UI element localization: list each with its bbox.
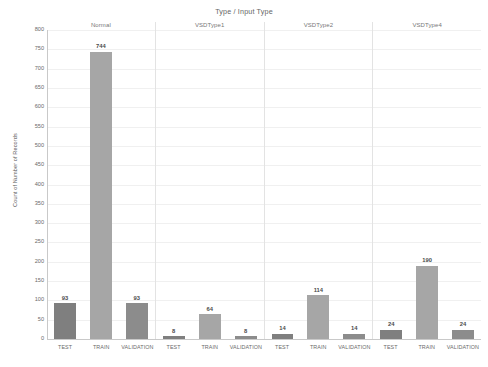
panel-vsdtype2: VSDType21411414 bbox=[265, 22, 374, 339]
panel-bars: 8648 bbox=[156, 30, 264, 339]
bar-train[interactable] bbox=[416, 266, 438, 339]
y-axis-title: Count of Number of Records bbox=[9, 0, 21, 339]
bar-value-label: 93 bbox=[134, 296, 140, 302]
bar-value-label: 24 bbox=[460, 322, 466, 328]
bar-slot: 93 bbox=[119, 30, 155, 339]
y-tick-label: 150 bbox=[35, 278, 44, 284]
bar-value-label: 64 bbox=[206, 307, 212, 313]
x-tick-label: TEST bbox=[47, 341, 83, 355]
bar-chart: Type / Input Type Count of Number of Rec… bbox=[0, 0, 488, 367]
y-tick-label: 800 bbox=[35, 27, 44, 33]
bar-train[interactable] bbox=[199, 314, 221, 339]
y-tick-label: 600 bbox=[35, 104, 44, 110]
x-label-group: TESTTRAINVALIDATION bbox=[156, 341, 265, 355]
bar-test[interactable] bbox=[272, 334, 294, 339]
x-label-group: TESTTRAINVALIDATION bbox=[47, 341, 156, 355]
panel-header-label: VSDType1 bbox=[156, 22, 264, 30]
bar-validation[interactable] bbox=[343, 334, 365, 339]
bar-value-label: 14 bbox=[279, 326, 285, 332]
x-tick-label: TRAIN bbox=[409, 341, 445, 355]
bar-value-label: 93 bbox=[62, 296, 68, 302]
bar-slot: 93 bbox=[47, 30, 83, 339]
bar-validation[interactable] bbox=[235, 336, 257, 339]
bar-value-label: 190 bbox=[422, 258, 432, 264]
y-tick-label: 500 bbox=[35, 143, 44, 149]
bar-value-label: 14 bbox=[351, 326, 357, 332]
panel-normal: Normal9374493 bbox=[47, 22, 156, 339]
bar-slot: 114 bbox=[300, 30, 336, 339]
panel-bars: 9374493 bbox=[47, 30, 155, 339]
panel-bars: 1411414 bbox=[265, 30, 373, 339]
x-tick-label: VALIDATION bbox=[228, 341, 264, 355]
bar-value-label: 8 bbox=[244, 329, 247, 335]
panel-vsdtype4: VSDType42419024 bbox=[373, 22, 481, 339]
x-tick-label: TEST bbox=[156, 341, 192, 355]
x-tick-label: VALIDATION bbox=[336, 341, 372, 355]
y-tick-label: 200 bbox=[35, 259, 44, 265]
y-tick-label: 100 bbox=[35, 298, 44, 304]
bar-value-label: 8 bbox=[172, 329, 175, 335]
x-axis-labels: TESTTRAINVALIDATIONTESTTRAINVALIDATIONTE… bbox=[47, 341, 481, 355]
y-tick-label: 750 bbox=[35, 47, 44, 53]
chart-title: Type / Input Type bbox=[0, 7, 488, 16]
bar-slot: 24 bbox=[373, 30, 409, 339]
x-tick-label: TEST bbox=[264, 341, 300, 355]
y-tick-label: 550 bbox=[35, 124, 44, 130]
y-axis-title-label: Count of Number of Records bbox=[12, 133, 18, 207]
x-tick-label: VALIDATION bbox=[445, 341, 481, 355]
bar-test[interactable] bbox=[54, 303, 76, 339]
bar-slot: 14 bbox=[265, 30, 301, 339]
bar-slot: 8 bbox=[228, 30, 264, 339]
x-axis-line bbox=[47, 339, 481, 340]
x-label-group: TESTTRAINVALIDATION bbox=[264, 341, 373, 355]
bar-validation[interactable] bbox=[126, 303, 148, 339]
y-tick-label: 400 bbox=[35, 182, 44, 188]
bar-slot: 24 bbox=[445, 30, 481, 339]
x-tick-label: TRAIN bbox=[83, 341, 119, 355]
y-tick-label: 650 bbox=[35, 85, 44, 91]
panel-bars: 2419024 bbox=[373, 30, 481, 339]
panel-header-label: Normal bbox=[47, 22, 155, 30]
bar-slot: 64 bbox=[192, 30, 228, 339]
bar-test[interactable] bbox=[163, 336, 185, 339]
x-tick-label: TEST bbox=[373, 341, 409, 355]
bar-slot: 8 bbox=[156, 30, 192, 339]
bar-slot: 14 bbox=[336, 30, 372, 339]
panel-header-label: VSDType2 bbox=[265, 22, 373, 30]
bar-slot: 190 bbox=[409, 30, 445, 339]
bar-train[interactable] bbox=[307, 295, 329, 339]
y-tick-label: 250 bbox=[35, 240, 44, 246]
x-tick-label: TRAIN bbox=[300, 341, 336, 355]
bar-test[interactable] bbox=[380, 330, 402, 339]
y-tick-label: 350 bbox=[35, 201, 44, 207]
y-tick-label: 50 bbox=[38, 317, 44, 323]
panel-header-label: VSDType4 bbox=[373, 22, 481, 30]
bar-train[interactable] bbox=[90, 52, 112, 339]
y-tick-label: 450 bbox=[35, 162, 44, 168]
y-axis-ticks: 8007507006506005505004504003503002502001… bbox=[22, 30, 44, 339]
x-tick-label: VALIDATION bbox=[119, 341, 155, 355]
bar-value-label: 24 bbox=[388, 322, 394, 328]
y-tick-label: 700 bbox=[35, 66, 44, 72]
panel-vsdtype1: VSDType18648 bbox=[156, 22, 265, 339]
panel-container: Normal9374493VSDType18648VSDType21411414… bbox=[47, 22, 481, 339]
bar-slot: 744 bbox=[83, 30, 119, 339]
x-tick-label: TRAIN bbox=[192, 341, 228, 355]
y-tick-label: 300 bbox=[35, 220, 44, 226]
y-tick-label: 0 bbox=[41, 336, 44, 342]
bar-validation[interactable] bbox=[452, 330, 474, 339]
bar-value-label: 114 bbox=[314, 288, 323, 294]
bar-value-label: 744 bbox=[96, 44, 106, 50]
x-label-group: TESTTRAINVALIDATION bbox=[373, 341, 482, 355]
